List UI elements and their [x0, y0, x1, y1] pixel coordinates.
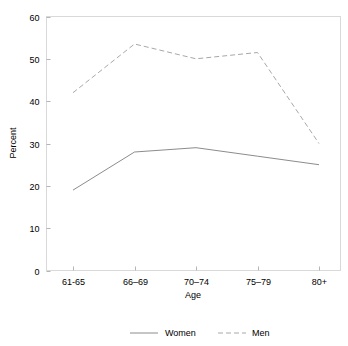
- line-chart: 0102030405060 61-6566–6970–7475–7980+ Pe…: [0, 0, 348, 346]
- y-axis-title: Percent: [8, 127, 18, 159]
- x-tick-label: 75–79: [246, 277, 271, 287]
- y-axis-tick-labels: 0102030405060: [29, 13, 39, 277]
- y-tick-label: 30: [29, 140, 39, 150]
- x-axis-ticks: [74, 267, 320, 271]
- plot-area-frame: [47, 17, 341, 271]
- x-axis-tick-labels: 61-6566–6970–7475–7980+: [62, 277, 327, 287]
- legend-label-women: Women: [165, 328, 196, 338]
- x-axis-title: Age: [185, 290, 201, 300]
- y-tick-label: 20: [29, 182, 39, 192]
- series-line-women: [73, 148, 319, 190]
- y-tick-label: 60: [29, 13, 39, 23]
- x-tick-label: 70–74: [184, 277, 209, 287]
- y-tick-label: 50: [29, 55, 39, 65]
- x-tick-label: 61-65: [62, 277, 85, 287]
- series-line-men: [73, 44, 319, 144]
- chart-legend: WomenMen: [130, 328, 270, 338]
- data-series-group: [73, 44, 319, 190]
- y-tick-label: 0: [34, 267, 39, 277]
- y-tick-label: 40: [29, 97, 39, 107]
- y-tick-label: 10: [29, 224, 39, 234]
- chart-container: 0102030405060 61-6566–6970–7475–7980+ Pe…: [0, 0, 348, 346]
- legend-label-men: Men: [252, 328, 270, 338]
- x-tick-label: 80+: [312, 277, 327, 287]
- x-tick-label: 66–69: [123, 277, 148, 287]
- y-axis-ticks: [47, 18, 51, 272]
